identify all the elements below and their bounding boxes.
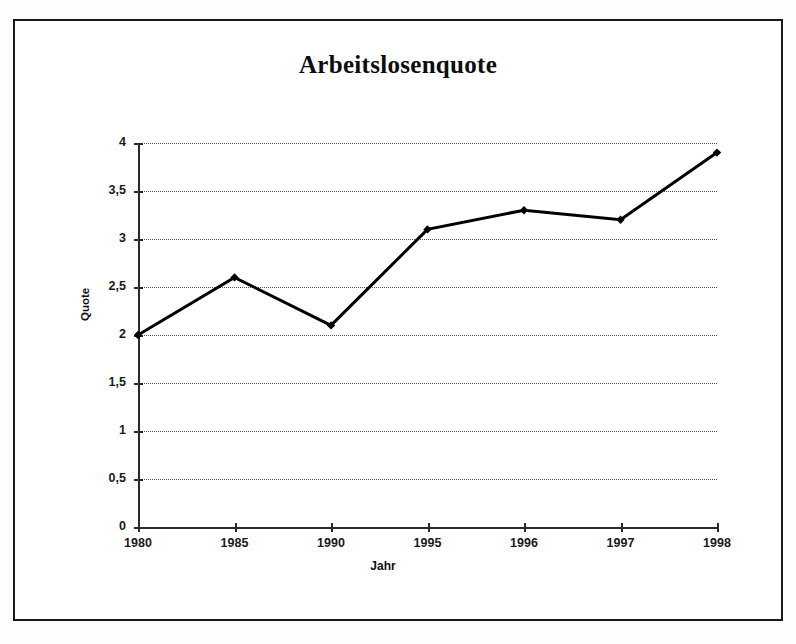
series-line (138, 153, 717, 335)
x-axis-title: Jahr (15, 559, 781, 573)
data-point-marker (520, 206, 528, 214)
y-axis-tick-label: 0,5 (86, 471, 126, 485)
y-axis-tick-label: 1,5 (86, 375, 126, 389)
x-axis-title-label: Jahr (370, 559, 395, 573)
x-axis-tick-label: 1985 (200, 536, 270, 550)
y-axis-tick-label: 3 (86, 231, 126, 245)
x-axis-tick-label: 1996 (489, 536, 559, 550)
plot-area (138, 143, 717, 527)
y-axis-tick-label: 0 (86, 519, 126, 533)
x-axis-tick-label: 1990 (296, 536, 366, 550)
figure-frame: Arbeitslosenquote Quote Jahr 00,511,522,… (13, 19, 783, 621)
y-axis-tick-label: 3,5 (86, 183, 126, 197)
x-axis-tick-label: 1998 (682, 536, 752, 550)
x-axis-tick-label: 1980 (103, 536, 173, 550)
x-axis-tick (717, 523, 719, 532)
chart-page: Arbeitslosenquote Quote Jahr 00,511,522,… (0, 0, 796, 644)
y-axis-tick-label: 2,5 (86, 279, 126, 293)
x-axis-tick-label: 1995 (393, 536, 463, 550)
page-title: Arbeitslosenquote (15, 51, 781, 79)
x-axis-tick-label: 1997 (586, 536, 656, 550)
y-axis-tick-label: 1 (86, 423, 126, 437)
y-axis-tick-label: 2 (86, 327, 126, 341)
line-series (138, 143, 717, 527)
y-axis-tick-label: 4 (86, 135, 126, 149)
